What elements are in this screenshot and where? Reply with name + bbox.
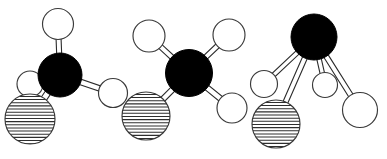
top-substituent	[43, 9, 74, 40]
middle-molecule-central-atom	[166, 50, 213, 97]
middle-substituent	[313, 73, 338, 98]
molecule-canvas	[0, 0, 387, 159]
molecular-figure	[0, 0, 387, 159]
lower-left-hatched-substituent	[5, 94, 55, 144]
right-substituent	[99, 79, 128, 108]
top-left-substituent	[133, 20, 165, 52]
top-right-substituent	[213, 19, 245, 51]
left-substituent	[251, 71, 278, 98]
right-molecule-central-atom	[291, 14, 337, 60]
left-molecule-central-atom	[38, 53, 82, 97]
right-substituent	[343, 93, 378, 128]
bottom-right-substituent	[217, 93, 247, 123]
